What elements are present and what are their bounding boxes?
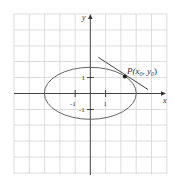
y-axis-label: y bbox=[81, 13, 86, 22]
point-p-label: P(x0, y0) bbox=[126, 66, 157, 77]
y-tick-label-neg1: -1 bbox=[79, 106, 85, 114]
x-axis-label: x bbox=[162, 96, 167, 105]
y-axis-arrow-icon bbox=[88, 14, 92, 19]
x-tick-label-neg1: -1 bbox=[70, 100, 76, 108]
ellipse-tangent-diagram: x y -1 1 1 -1 P(x0, y0) bbox=[0, 0, 174, 182]
x-tick-label-1: 1 bbox=[104, 100, 108, 108]
y-tick-label-1: 1 bbox=[82, 74, 86, 82]
